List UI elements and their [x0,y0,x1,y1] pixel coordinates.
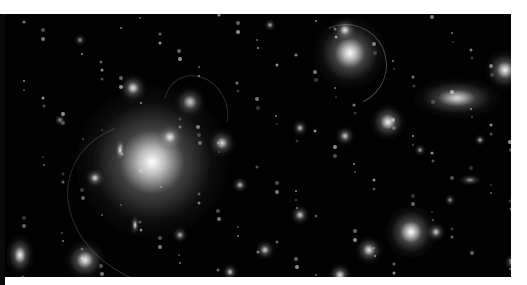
galaxy [74,34,86,46]
star-speck [42,96,45,99]
galaxy [76,86,228,238]
star-speck [62,240,64,242]
galaxy [328,263,352,277]
star-speck [509,268,511,270]
galaxy [222,264,238,277]
star-speck [256,39,258,41]
star-speck [411,194,415,198]
galaxy [370,104,406,140]
star-speck [256,251,259,254]
star-speck [159,41,162,44]
star-speck [23,89,25,91]
star-speck [411,202,415,206]
star-speck [100,69,103,72]
star-speck [101,77,104,80]
star-speck [393,271,396,274]
galaxy [335,126,355,146]
star-speck [81,53,83,55]
star-speck [295,199,297,201]
star-speck [452,41,454,43]
star-speck [470,251,474,255]
star-speck [178,57,182,61]
star-speck [196,125,200,129]
star-speck [218,151,220,153]
star-speck [470,48,473,51]
star-speck [392,60,394,62]
star-speck [61,112,65,116]
star-speck [159,178,161,180]
star-speck [99,264,103,268]
star-speck [237,90,240,93]
galaxy [232,177,248,193]
galaxy [426,222,446,242]
star-speck [217,268,220,271]
star-speck [508,140,511,144]
star-speck [372,179,375,182]
galaxy [292,120,308,136]
galaxy [6,235,34,275]
galaxy [414,144,426,156]
star-speck [120,153,123,156]
star-speck [450,90,454,94]
star-speck [333,145,337,149]
star-speck [61,121,65,125]
star-speck [372,42,376,46]
star-speck [158,33,161,36]
star-speck [61,172,64,175]
star-speck [334,27,337,30]
star-speck [178,117,181,120]
star-speck [450,227,453,230]
star-speck [120,27,122,29]
star-speck [296,207,298,209]
star-speck [100,60,103,63]
star-speck [255,97,259,101]
star-speck [217,217,221,221]
star-speck [412,135,414,137]
star-speck [509,148,511,152]
star-speck [178,254,180,256]
galaxy [208,129,236,157]
star-speck [490,132,493,135]
star-speck [373,247,375,249]
star-speck [22,21,25,24]
star-speck [471,116,473,118]
star-speck [100,272,104,276]
star-speck [353,163,355,165]
star-speck [119,85,123,89]
galaxy [115,138,126,162]
galaxy [131,215,140,235]
star-speck [333,154,337,158]
star-speck [391,118,395,122]
star-speck [335,96,337,98]
star-speck [22,216,26,220]
star-speck [353,103,356,106]
star-speck [412,84,415,87]
star-speck [314,215,317,218]
star-speck [431,151,434,154]
galaxy [174,86,206,118]
star-speck [509,259,511,261]
star-speck [431,211,433,213]
galaxy [119,74,147,102]
star-speck [197,193,200,196]
star-speck [450,176,454,180]
star-speck [42,156,44,158]
galaxy-cluster-photo [5,14,511,277]
star-speck [119,76,123,80]
star-speck [101,214,103,216]
star-speck [353,238,357,242]
star-speck [509,208,511,211]
star-speck [101,129,103,131]
star-speck [5,14,6,15]
star-speck [490,192,492,194]
star-speck [217,14,220,17]
star-speck [392,263,395,266]
star-speck [315,20,317,22]
star-speck [198,75,200,77]
star-speck [62,180,65,183]
star-speck [41,37,45,41]
star-speck [198,141,202,145]
star-speck [393,68,395,70]
star-speck [275,115,277,117]
star-speck [275,181,279,185]
